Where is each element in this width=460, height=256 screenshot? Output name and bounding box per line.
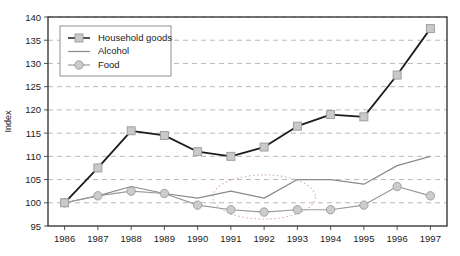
data-point-marker [293, 122, 301, 130]
x-tick-label: 1986 [54, 233, 75, 244]
y-tick-label: 105 [25, 174, 41, 185]
x-tick-label: 1987 [87, 233, 108, 244]
y-tick-label: 120 [25, 104, 41, 115]
legend-label: Household goods [98, 32, 172, 43]
legend-label: Alcohol [98, 45, 129, 56]
data-point-marker [227, 152, 235, 160]
y-tick-label: 130 [25, 58, 41, 69]
data-point-marker [426, 25, 434, 33]
legend[interactable]: Household goodsAlcoholFood [60, 26, 172, 76]
data-point-marker [127, 187, 135, 195]
x-tick-label: 1989 [154, 233, 175, 244]
y-tick-label: 95 [30, 221, 41, 232]
data-point-marker [127, 127, 135, 135]
data-point-marker [260, 208, 268, 216]
x-tick-label: 1993 [287, 233, 308, 244]
y-tick-label: 110 [26, 151, 41, 162]
x-tick-label: 1990 [187, 233, 208, 244]
x-tick-label: 1997 [420, 233, 441, 244]
line-chart: 9510010511011512012513013514019861987198… [0, 0, 460, 256]
data-point-marker [426, 192, 434, 200]
data-point-marker [61, 199, 69, 207]
x-tick-label: 1988 [121, 233, 142, 244]
data-point-marker [293, 206, 301, 214]
legend-label: Food [98, 59, 120, 70]
y-axis-label: Index [3, 110, 13, 133]
x-tick-label: 1995 [353, 233, 374, 244]
data-point-marker [360, 201, 368, 209]
data-point-marker [160, 131, 168, 139]
data-point-marker [327, 111, 335, 119]
data-point-marker [227, 206, 235, 214]
data-point-marker [260, 143, 268, 151]
data-point-marker [94, 164, 102, 172]
x-tick-label: 1992 [254, 233, 275, 244]
chart-container: 9510010511011512012513013514019861987198… [0, 0, 460, 256]
y-tick-label: 115 [26, 128, 41, 139]
data-point-marker [360, 113, 368, 121]
data-point-marker [393, 71, 401, 79]
data-point-marker [393, 182, 401, 190]
data-point-marker [160, 189, 168, 197]
series-food [60, 182, 434, 216]
y-tick-label: 125 [25, 81, 41, 92]
data-point-marker [193, 201, 201, 209]
x-tick-label: 1996 [387, 233, 408, 244]
x-tick-label: 1994 [320, 233, 341, 244]
data-point-marker [326, 206, 334, 214]
y-axis-title: Index [3, 110, 13, 133]
y-tick-label: 135 [25, 35, 41, 46]
y-tick-label: 100 [25, 197, 41, 208]
y-tick-label: 140 [25, 12, 41, 23]
x-tick-label: 1991 [220, 233, 241, 244]
data-point-marker [194, 148, 202, 156]
data-point-marker [94, 192, 102, 200]
